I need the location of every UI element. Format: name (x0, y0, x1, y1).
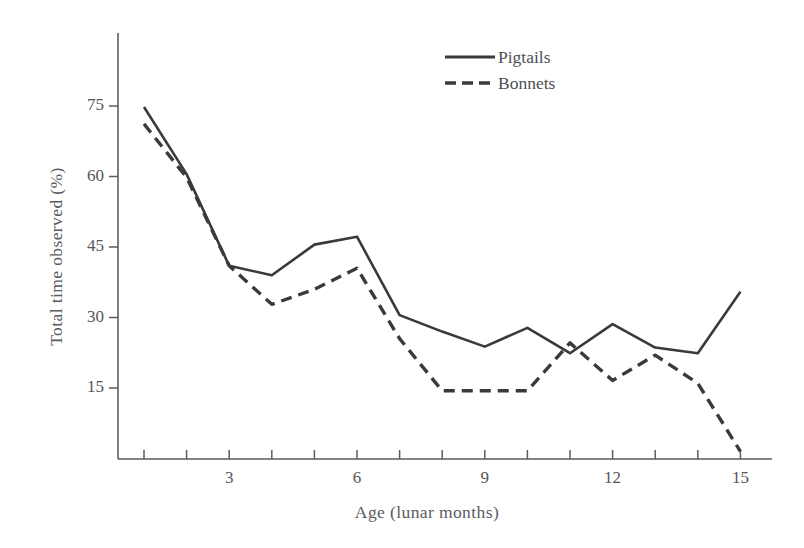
x-tick-label: 15 (715, 468, 765, 488)
x-tick-label: 12 (588, 468, 638, 488)
axis-lines (118, 33, 772, 459)
data-series-layer (144, 107, 740, 452)
x-tick-label: 3 (204, 468, 254, 488)
legend-label-bonnets: Bonnets (496, 73, 555, 94)
y-tick-marks (109, 106, 118, 388)
x-tick-marks (144, 450, 740, 459)
x-tick-label: 6 (332, 468, 382, 488)
legend-item-pigtails: Pigtails (444, 44, 674, 70)
x-tick-label: 9 (460, 468, 510, 488)
y-axis-title: Total time observed (%) (46, 107, 67, 407)
legend-item-bonnets: Bonnets (444, 70, 674, 96)
series-line-bonnets (144, 124, 740, 452)
plot-area (0, 0, 804, 548)
chart-legend: Pigtails Bonnets (444, 44, 674, 96)
legend-label-pigtails: Pigtails (496, 47, 551, 68)
chart-figure: 1530456075 3691215 Total time observed (… (0, 0, 804, 548)
x-axis-title: Age (lunar months) (302, 502, 552, 523)
legend-swatch-solid-icon (444, 51, 496, 63)
series-line-pigtails (144, 107, 740, 353)
legend-swatch-dashed-icon (444, 77, 496, 89)
